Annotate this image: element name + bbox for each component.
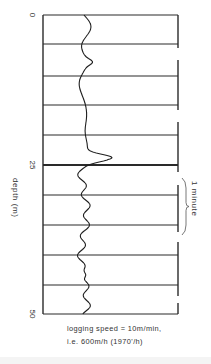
well-log-figure: 0 25 50 depth (m) 1 minute logging speed…	[0, 0, 211, 364]
scan-bottom-edge	[0, 357, 211, 364]
depth-axis-label: depth (m)	[11, 178, 20, 218]
depth-grid-lines	[43, 15, 178, 314]
depth-tick-50: 50	[28, 310, 36, 319]
caption-line-2: i.e. 600m/h (1970'/h)	[67, 337, 143, 346]
minute-brace	[182, 178, 189, 235]
minute-label: 1 minute	[190, 181, 199, 216]
caption-line-1: logging speed = 10m/min,	[67, 324, 161, 333]
depth-tick-25: 25	[28, 161, 36, 170]
depth-tick-0: 0	[28, 13, 36, 17]
